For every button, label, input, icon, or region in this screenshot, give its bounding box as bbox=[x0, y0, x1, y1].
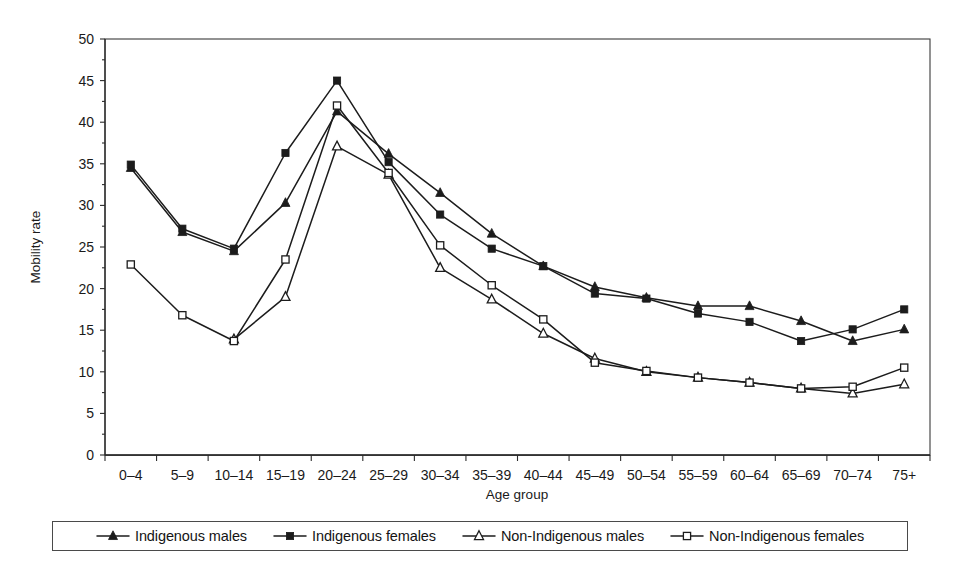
data-point-marker bbox=[694, 310, 701, 317]
x-tick-label: 5–9 bbox=[171, 467, 195, 483]
data-point-marker bbox=[901, 364, 908, 371]
data-point-marker bbox=[127, 261, 134, 268]
x-tick-label: 50–54 bbox=[627, 467, 666, 483]
y-axis: 05101520253035404550 bbox=[78, 31, 105, 463]
legend-entry-non-indigenous-females[interactable]: Non-Indigenous females bbox=[670, 528, 864, 544]
data-point-marker bbox=[437, 211, 444, 218]
y-tick-label: 15 bbox=[78, 322, 94, 338]
y-tick-label: 5 bbox=[86, 405, 94, 421]
legend-label: Non-Indigenous males bbox=[501, 528, 644, 544]
y-tick-label: 25 bbox=[78, 239, 94, 255]
data-point-marker bbox=[849, 326, 856, 333]
data-point-marker bbox=[333, 77, 340, 84]
data-point-marker bbox=[591, 290, 598, 297]
data-point-marker bbox=[540, 316, 547, 323]
data-point-marker bbox=[282, 149, 289, 156]
data-point-marker bbox=[797, 385, 804, 392]
data-point-marker bbox=[797, 337, 804, 344]
x-tick-label: 20–24 bbox=[318, 467, 357, 483]
legend-marker-open-square-icon bbox=[670, 529, 704, 543]
x-tick-label: 10–14 bbox=[214, 467, 253, 483]
legend-marker-filled-triangle-icon bbox=[96, 529, 130, 543]
legend-marker-filled-square-icon bbox=[273, 529, 307, 543]
data-point-marker bbox=[694, 374, 701, 381]
x-tick-label: 65–69 bbox=[782, 467, 821, 483]
x-tick-label: 45–49 bbox=[575, 467, 614, 483]
legend-label: Non-Indigenous females bbox=[709, 528, 864, 544]
data-point-marker bbox=[230, 337, 237, 344]
x-tick-label: 25–29 bbox=[369, 467, 408, 483]
legend-entry-non-indigenous-males[interactable]: Non-Indigenous males bbox=[462, 528, 644, 544]
data-point-marker bbox=[746, 318, 753, 325]
y-axis-title: Mobility rate bbox=[28, 211, 43, 284]
data-point-marker bbox=[901, 306, 908, 313]
chart-legend: Indigenous malesIndigenous femalesNon-In… bbox=[52, 521, 908, 551]
legend-label: Indigenous females bbox=[312, 528, 436, 544]
legend-entry-indigenous-males[interactable]: Indigenous males bbox=[96, 528, 247, 544]
x-tick-label: 15–19 bbox=[266, 467, 305, 483]
x-tick-label: 30–34 bbox=[421, 467, 460, 483]
data-point-marker bbox=[127, 161, 134, 168]
data-point-marker bbox=[385, 169, 392, 176]
y-tick-label: 30 bbox=[78, 197, 94, 213]
data-point-marker bbox=[643, 295, 650, 302]
data-point-marker bbox=[746, 379, 753, 386]
chart-figure: 05101520253035404550 0–45–910–1415–1920–… bbox=[0, 0, 960, 564]
x-axis-title: Age group bbox=[486, 487, 548, 502]
data-point-marker bbox=[437, 242, 444, 249]
x-tick-label: 75+ bbox=[892, 467, 916, 483]
x-tick-label: 35–39 bbox=[472, 467, 511, 483]
y-tick-label: 45 bbox=[78, 73, 94, 89]
y-tick-label: 40 bbox=[78, 114, 94, 130]
y-tick-label: 20 bbox=[78, 281, 94, 297]
data-point-marker bbox=[179, 312, 186, 319]
data-point-marker bbox=[488, 282, 495, 289]
x-tick-label: 40–44 bbox=[524, 467, 563, 483]
y-tick-label: 10 bbox=[78, 364, 94, 380]
data-point-marker bbox=[488, 245, 495, 252]
x-tick-label: 0–4 bbox=[119, 467, 143, 483]
data-point-marker bbox=[333, 102, 340, 109]
legend-entry-indigenous-females[interactable]: Indigenous females bbox=[273, 528, 436, 544]
legend-marker-open-triangle-icon bbox=[462, 529, 496, 543]
x-tick-label: 70–74 bbox=[833, 467, 872, 483]
data-point-marker bbox=[179, 225, 186, 232]
x-tick-label: 60–64 bbox=[730, 467, 769, 483]
legend-items: Indigenous malesIndigenous femalesNon-In… bbox=[96, 528, 864, 544]
data-point-marker bbox=[591, 359, 598, 366]
data-point-marker bbox=[849, 383, 856, 390]
mobility-rate-line-chart: 05101520253035404550 0–45–910–1415–1920–… bbox=[0, 0, 960, 505]
data-point-marker bbox=[282, 256, 289, 263]
y-tick-label: 35 bbox=[78, 156, 94, 172]
data-point-marker bbox=[540, 263, 547, 270]
x-axis: 0–45–910–1415–1920–2425–2930–3435–3940–4… bbox=[105, 455, 930, 483]
data-point-marker bbox=[230, 245, 237, 252]
data-point-marker bbox=[643, 367, 650, 374]
y-tick-label: 50 bbox=[78, 31, 94, 47]
y-tick-label: 0 bbox=[86, 447, 94, 463]
legend-label: Indigenous males bbox=[135, 528, 247, 544]
x-tick-label: 55–59 bbox=[679, 467, 718, 483]
data-point-marker bbox=[385, 159, 392, 166]
